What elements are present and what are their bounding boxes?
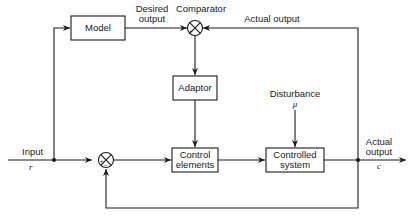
- actual-output-feedback-label: Actual output: [244, 13, 300, 24]
- model-block: Model: [71, 16, 125, 40]
- control-elements-label-2: elements: [176, 159, 215, 170]
- controlled-system-label-2: system: [280, 159, 310, 170]
- summing-minus-sign: −: [104, 162, 108, 168]
- comparator-junction: +: [188, 21, 203, 36]
- output-symbol: c: [377, 161, 381, 171]
- input-label: Input: [22, 146, 43, 157]
- model-label: Model: [85, 22, 111, 33]
- adaptor-block: Adaptor: [173, 76, 217, 100]
- controlled-system-block: Controlled system: [266, 148, 324, 172]
- disturbance-label: Disturbance: [270, 88, 321, 99]
- input-symbol: r: [29, 162, 33, 172]
- control-elements-block: Control elements: [172, 148, 218, 172]
- desired-output-label-2: output: [139, 13, 166, 24]
- comparator-plus-sign: +: [189, 28, 193, 34]
- block-diagram: Input r Model Desired output + Comparato…: [0, 0, 411, 217]
- summing-junction: + −: [99, 153, 114, 169]
- comparator-label: Comparator: [176, 3, 226, 14]
- actual-output-label-2: output: [366, 146, 393, 157]
- disturbance-symbol: μ: [292, 99, 298, 109]
- model-input-line: [54, 28, 70, 160]
- adaptor-label: Adaptor: [178, 82, 211, 93]
